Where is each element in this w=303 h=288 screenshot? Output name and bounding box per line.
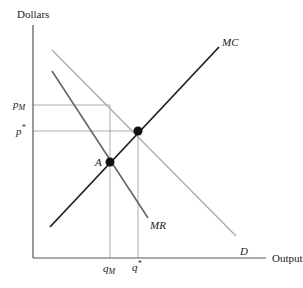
competitive-equilibrium-dot (134, 127, 143, 136)
point-a-dot (106, 158, 115, 167)
point-a-label: A (94, 156, 102, 168)
qstar-tick-label: q* (132, 259, 142, 273)
mc-label: MC (221, 36, 239, 48)
demand-curve (52, 50, 236, 236)
mr-label: MR (149, 219, 166, 231)
demand-label: D (239, 245, 248, 257)
qm-tick-label: qM (103, 262, 117, 276)
monopoly-diagram: Dollars Output MC MR D A pM p* qM q* (0, 0, 303, 288)
y-axis-label: Dollars (17, 8, 49, 20)
pm-tick-label: pM (12, 98, 27, 112)
guide-lines (33, 105, 138, 258)
x-axis-label: Output (272, 252, 303, 264)
mr-curve (52, 71, 148, 218)
pstar-tick-label: p* (15, 123, 26, 137)
